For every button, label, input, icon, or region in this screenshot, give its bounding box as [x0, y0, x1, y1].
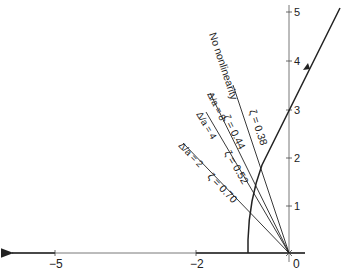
y-tick-label: 2	[294, 152, 300, 164]
x-tick-label: −5	[49, 257, 63, 271]
locus-direction-arrow	[303, 63, 310, 70]
label-zeta-038: ζ = 0.38	[247, 108, 270, 147]
x-tick-label: −2	[190, 257, 204, 271]
y-tick-label: 1	[294, 200, 300, 212]
y-tick-label: 4	[294, 55, 300, 67]
label-delta-2: Δ/a = 2	[177, 140, 206, 170]
label-zeta-052: ζ = 0.52	[222, 148, 251, 186]
y-tick-label: 5	[294, 6, 300, 18]
y-tick-label: 3	[294, 104, 300, 116]
root-locus-diagram: −5 −2 0 1 2 3 4 5 No nonlinearity ζ = 0.…	[0, 0, 344, 273]
x-tick-label: 0	[293, 257, 300, 271]
